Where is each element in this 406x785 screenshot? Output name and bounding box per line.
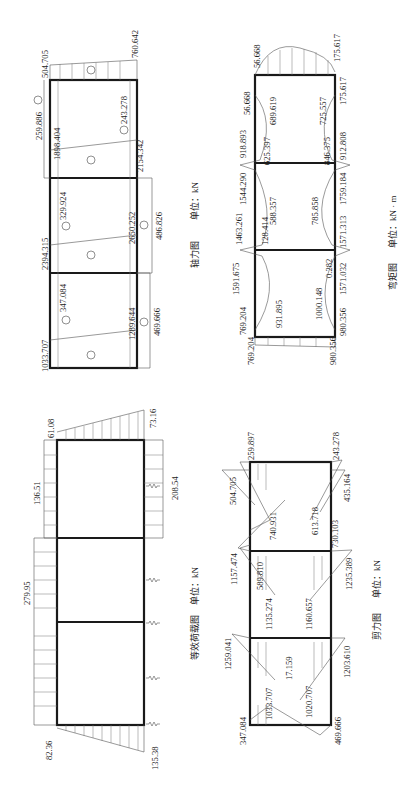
axial-value: 504.705 xyxy=(40,50,50,78)
shear-value: 613.718 xyxy=(310,507,320,535)
shear-value: 347.084 xyxy=(238,716,248,745)
shear-value: 1157.474 xyxy=(229,552,239,585)
load-value: 136.51 xyxy=(32,481,42,505)
moment-value: 1571.313 xyxy=(338,216,348,248)
moment-unit: 单位：kN · m xyxy=(387,196,398,249)
axial-force-diagram: 1033.707 347.084 1289.644 469.666 2394.3… xyxy=(34,30,200,372)
axial-top-diagram xyxy=(50,60,137,80)
shear-value: 504.705 xyxy=(228,477,238,505)
axial-value: 1033.707 xyxy=(40,339,50,372)
moment-value: 1463.261 xyxy=(234,213,244,245)
moment-value: 1000.148 xyxy=(314,288,324,320)
moment-value: 846.375 xyxy=(322,137,332,165)
load-value: 73.16 xyxy=(148,408,158,428)
load-value: 135.38 xyxy=(150,746,160,770)
axial-value: 329.924 xyxy=(58,191,68,220)
frame-outline xyxy=(250,462,331,725)
shear-value: 1203.610 xyxy=(342,646,352,678)
moment-value: 785.858 xyxy=(310,197,320,225)
moment-value: 56.668 xyxy=(252,44,262,68)
axial-value: 760.642 xyxy=(130,30,140,58)
load-value: 208.54 xyxy=(170,476,180,500)
shear-value: 259.897 xyxy=(246,431,256,460)
moment-value: 725.557 xyxy=(318,96,328,125)
axial-value: 469.666 xyxy=(152,307,162,336)
equivalent-load-diagram: 82.36 135.38 279.95 136.51 208.54 61.08 … xyxy=(22,408,200,770)
shear-unit: 单位：kN xyxy=(371,560,382,599)
moment-value: 56.668 xyxy=(242,91,252,115)
shear-value: 1160.657 xyxy=(304,597,314,630)
moment-value: 980.356 xyxy=(328,336,338,365)
moment-value: 689.619 xyxy=(268,97,278,125)
load-bottom xyxy=(57,725,144,752)
axial-value: 1898.404 xyxy=(52,127,62,160)
shear-value: 17.159 xyxy=(284,656,294,680)
shear-value: 435.164 xyxy=(342,473,352,502)
moment-value: 588.357 xyxy=(268,196,278,225)
axial-value: 2154.342 xyxy=(135,140,145,172)
axial-value: 347.084 xyxy=(58,283,68,312)
shear-value: 1020.707 xyxy=(304,685,314,718)
axial-unit: 单位：kN xyxy=(189,182,200,221)
moment-value: 175.617 xyxy=(332,33,342,62)
moment-value: 1544.290 xyxy=(238,173,248,205)
load-caption: 等效荷载图 xyxy=(189,615,200,660)
load-value: 61.08 xyxy=(46,419,56,438)
moment-value: 1591.675 xyxy=(231,263,241,295)
shear-value: 740.931 xyxy=(268,512,278,540)
spring-supports xyxy=(146,484,160,726)
axial-value: 2650.252 xyxy=(127,212,137,244)
load-unit: 单位：kN xyxy=(189,567,200,606)
shear-caption: 剪力图 xyxy=(371,613,382,640)
moment-value: 918.893 xyxy=(238,130,248,158)
moment-value: 769.204 xyxy=(238,306,248,335)
moment-value: 1759.184 xyxy=(338,172,348,205)
moment-value: 0.282 xyxy=(324,259,334,278)
shear-value: 589.810 xyxy=(255,562,265,590)
moment-value: 769.204 xyxy=(246,336,256,365)
shear-value: 1033.707 xyxy=(264,687,274,720)
axial-value: 259.886 xyxy=(34,111,44,140)
shear-value: 1259.041 xyxy=(223,638,233,670)
axial-value: 2394.315 xyxy=(40,238,50,270)
load-value: 279.95 xyxy=(22,581,32,605)
shear-value: 243.278 xyxy=(331,432,341,460)
shear-value: 1235.389 xyxy=(344,558,354,590)
moment-caption: 弯矩图 xyxy=(387,263,398,290)
bending-moment-diagram: 769.204 769.204 931.895 1000.148 0.282 9… xyxy=(231,33,398,365)
moment-value: 931.895 xyxy=(274,300,284,328)
shear-value: 469.666 xyxy=(333,716,343,745)
load-top xyxy=(57,410,144,440)
axial-value: 243.278 xyxy=(119,96,129,124)
axial-caption: 轴力图 xyxy=(189,241,200,268)
load-value: 82.36 xyxy=(44,740,54,760)
frame-outline xyxy=(57,440,144,725)
moment-value: 625.397 xyxy=(262,136,272,165)
axial-value: 1289.644 xyxy=(127,307,137,340)
shear-value: 1135.274 xyxy=(264,597,274,630)
moment-value: 175.617 xyxy=(338,76,348,105)
shear-force-diagram: 347.084 469.666 1033.707 1020.707 17.159… xyxy=(222,431,382,745)
axial-value: 486.826 xyxy=(154,211,164,240)
moment-value: 912.808 xyxy=(338,132,348,160)
moment-value: 980.356 xyxy=(338,307,348,336)
moment-value: 1571.032 xyxy=(338,263,348,295)
shear-value: 730.103 xyxy=(330,520,340,548)
